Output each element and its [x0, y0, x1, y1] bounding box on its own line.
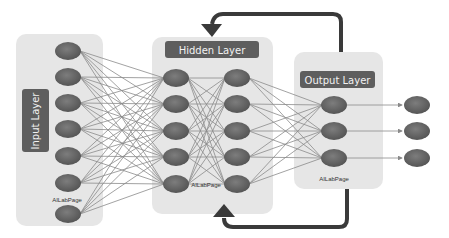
- watermark-input: AILabPage: [52, 197, 82, 203]
- neural-network-diagram: Input Layer Hidden Layer Output Layer AI…: [0, 0, 449, 238]
- svg-text:Hidden Layer: Hidden Layer: [179, 45, 246, 56]
- input-node: [55, 174, 81, 192]
- svg-text:Input Layer: Input Layer: [30, 92, 41, 150]
- input-node: [55, 205, 81, 223]
- output-node: [321, 149, 347, 167]
- output-node: [321, 96, 347, 114]
- final-output-node: [404, 122, 430, 140]
- svg-text:Output Layer: Output Layer: [305, 75, 372, 86]
- hidden2-node: [224, 122, 250, 140]
- hidden2-node: [224, 95, 250, 113]
- hidden1-node: [163, 148, 189, 166]
- hidden-layer-label: Hidden Layer: [165, 41, 259, 58]
- output-node: [321, 122, 347, 140]
- feedback-arrowhead-top-icon: [201, 24, 222, 37]
- final-output-node: [404, 149, 430, 167]
- hidden2-node: [224, 148, 250, 166]
- hidden1-node: [163, 122, 189, 140]
- input-node: [55, 94, 81, 112]
- hidden2-node: [224, 175, 250, 193]
- watermark-hidden: AILabPage: [191, 182, 221, 188]
- hidden1-node: [163, 95, 189, 113]
- watermark-output: AILabPage: [319, 176, 349, 182]
- hidden2-node: [224, 69, 250, 87]
- input-layer-label: Input Layer: [22, 89, 49, 152]
- hidden1-node: [163, 69, 189, 87]
- input-node: [55, 147, 81, 165]
- hidden1-node: [163, 175, 189, 193]
- input-node: [55, 42, 81, 60]
- input-node: [55, 120, 81, 138]
- final-output-node: [404, 96, 430, 114]
- input-node: [55, 68, 81, 86]
- output-layer-label: Output Layer: [300, 71, 375, 88]
